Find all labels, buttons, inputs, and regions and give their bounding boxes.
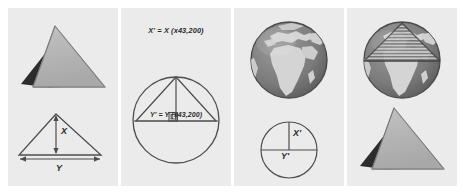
equation-y-prime: Y' = Y (x43,200): [121, 111, 231, 118]
panel-1-graphics: [8, 8, 118, 186]
panel-scaling-equations: X' = X (x43,200) Y' = Y (x43,200): [121, 8, 231, 186]
panel-4-graphics: [347, 8, 457, 186]
panel-globe-scaled-circle: X' Y': [234, 8, 344, 186]
pyramid-front-face: [372, 108, 444, 169]
base-arrow-head-right: [94, 156, 100, 162]
height-arrow-head-bottom: [53, 148, 58, 154]
base-label-y: Y: [56, 163, 62, 173]
base-arrow-head-left: [20, 156, 26, 162]
globe-highlight: [371, 30, 407, 54]
panel-strip: X Y X' = X (x43,200) Y' = Y (x43,200): [8, 8, 457, 186]
figure-container: X Y X' = X (x43,200) Y' = Y (x43,200): [0, 0, 465, 194]
pyramid-front-face: [33, 26, 105, 87]
panel-pyramid-measured: X Y: [8, 8, 118, 186]
equation-x-prime: X' = X (x43,200): [121, 26, 231, 35]
measure-triangle: [19, 114, 101, 155]
scaled-width-label-y-prime: Y': [281, 151, 289, 161]
globe-highlight: [256, 28, 296, 56]
panel-globe-with-pyramid: [347, 8, 457, 186]
height-label-x: X: [61, 126, 67, 136]
scaled-height-label-x-prime: X': [293, 128, 301, 138]
